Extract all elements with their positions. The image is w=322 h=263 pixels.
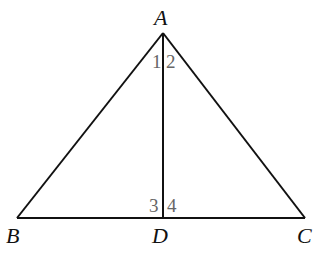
point-label-b: B: [6, 223, 19, 248]
angle-label-2: 2: [166, 51, 176, 72]
segment-ac: [163, 33, 305, 218]
segment-ab: [17, 33, 163, 218]
angle-label-3: 3: [149, 195, 159, 216]
point-label-a: A: [152, 5, 168, 30]
angle-label-4: 4: [167, 195, 177, 216]
point-label-c: C: [297, 223, 312, 248]
angle-label-1: 1: [152, 51, 162, 72]
point-label-d: D: [151, 223, 168, 248]
triangle-diagram: A B C D 1 2 3 4: [0, 0, 322, 263]
